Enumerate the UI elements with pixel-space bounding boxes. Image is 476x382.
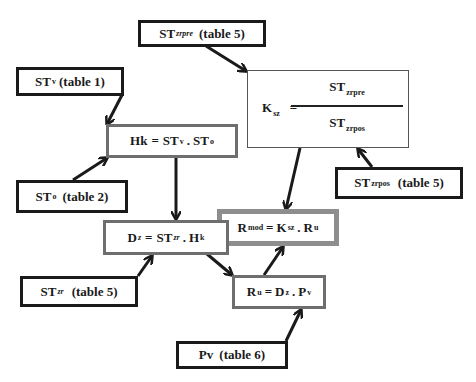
node-rmod-eq: = [266,220,273,236]
node-st-zrpos-base: ST [354,175,370,191]
node-rmod-t2: R [304,220,313,236]
node-st-v-suffix: (table 1) [59,74,105,90]
node-rmod-t1-sub: sz [288,223,295,232]
node-ru-eq: = [265,284,272,300]
node-dz-lhs-sub: z [138,233,141,242]
node-st-zrpos: STzrpos(table 5) [335,167,463,199]
node-hk-lhs: Hk [130,133,147,149]
node-dz-t2: H [189,230,199,246]
node-ru-lhs-sub: u [257,288,261,297]
node-dz-lhs: D [128,230,137,246]
node-rmod-lhs-sub: mod [248,223,263,232]
node-dz-eq: = [145,230,152,246]
node-hk-t2: ST [193,133,209,149]
node-st-zr-suffix: (table 5) [72,284,118,300]
node-st-zr: STzr(table 5) [20,276,138,307]
node-rmod-t2-sub: u [314,223,318,232]
node-ksz-den-sub: zrpos [346,124,365,133]
node-st-zrpre-base: ST [159,26,175,42]
node-ksz: Ksz= STzrpre STzrpos [247,70,409,148]
node-ru-t2: P [298,284,306,300]
node-ksz-den-base: ST [329,115,345,130]
node-ru-lhs: R [247,284,256,300]
arrow-stzrpos-to-ksz [358,149,372,167]
node-st-o-base: ST [36,189,52,205]
node-st-o-suffix: (table 2) [63,189,109,205]
node-st-zr-base: ST [41,284,57,300]
arrow-sto-to-hk [73,158,107,180]
node-hk-eq: = [151,133,158,149]
node-dz-t1: ST [156,230,172,246]
node-st-o-sub: o [53,192,57,201]
node-hk-t1-sub: v [180,137,184,146]
node-st-v-base: ST [35,74,51,90]
node-st-zrpos-sub: zrpos [371,179,390,188]
arrow-pv-to-ru [286,310,301,341]
arrow-stzrpre-to-ksz [206,46,246,71]
arrow-stv-to-hk [107,95,122,124]
node-dz-t2-sub: k [200,233,204,242]
node-hk-t2-sub: o [210,137,214,146]
node-ksz-denominator: STzrpos [329,115,365,133]
node-hk-t1: ST [163,133,179,149]
node-ksz-fraction: STzrpre STzrpos [288,79,406,133]
node-rmod-t1: K [277,220,287,236]
node-hk: Hk=STv.STo [106,124,238,158]
node-st-zr-sub: zr [57,287,63,296]
node-ru-t1-sub: z [285,288,289,297]
arrow-ksz-to-rmod [286,148,300,209]
node-dz: Dz=STzr.Hk [103,220,229,255]
node-pv-base: Pv [199,347,213,363]
node-dz-t1-sub: zr [173,233,179,242]
node-ksz-lhs: K [262,100,272,115]
node-ksz-num-sub: zrpre [346,88,365,97]
node-ru: Ru=Dz.Pv [232,275,326,309]
node-ksz-lhs-sub: sz [273,109,280,118]
node-st-o: STo(table 2) [16,180,128,213]
node-ru-op: . [292,284,295,300]
fraction-bar [291,105,403,107]
node-dz-op: . [183,230,186,246]
node-st-v: STv(table 1) [16,67,124,96]
node-st-zrpre-sub: zrpre [176,29,193,38]
node-pv-suffix: (table 6) [219,347,265,363]
node-st-zrpre: STzrpre(table 5) [138,20,266,47]
node-st-v-sub: v [52,77,56,86]
node-st-zrpos-suffix: (table 5) [398,175,444,191]
node-ksz-num-base: ST [329,79,345,94]
node-pv: Pv(table 6) [176,341,288,369]
arrow-dz-to-ru [207,254,232,275]
node-hk-op: . [187,133,190,149]
node-rmod: Rmod=Ksz.Ru [217,209,339,246]
node-ru-t1: D [275,284,284,300]
node-rmod-op: . [297,220,300,236]
node-rmod-lhs: R [238,220,247,236]
node-ru-t2-sub: v [307,288,311,297]
arrow-ru-to-rmod [264,247,283,275]
arrow-stzr-to-dz [138,256,152,276]
node-st-zrpre-suffix: (table 5) [199,26,245,42]
node-ksz-numerator: STzrpre [329,79,364,97]
